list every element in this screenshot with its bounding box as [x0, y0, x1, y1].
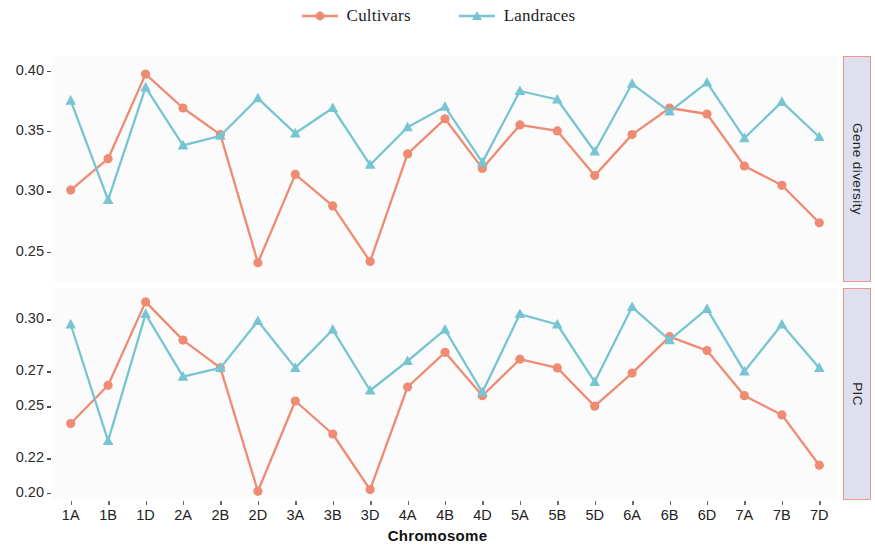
data-point-cultivars [328, 201, 337, 210]
x-axis-tick [408, 501, 409, 505]
data-point-landraces [65, 95, 76, 105]
x-axis-tick-label: 7D [810, 507, 829, 523]
data-point-cultivars [515, 120, 524, 129]
x-axis-tick [295, 501, 296, 505]
y-axis-tick [47, 131, 51, 132]
data-point-landraces [777, 319, 788, 329]
x-axis-tick [258, 501, 259, 505]
data-point-cultivars [740, 391, 749, 400]
x-axis-tick [520, 501, 521, 505]
data-point-landraces [440, 101, 451, 111]
x-axis-tick-label: 6B [661, 507, 679, 523]
data-point-cultivars [66, 186, 75, 195]
x-axis-tick [557, 501, 558, 505]
x-axis-tick-label: 4D [473, 507, 492, 523]
chart-legend: Cultivars Landraces [0, 0, 875, 32]
legend-item-landraces[interactable]: Landraces [457, 6, 576, 26]
x-axis-tick [445, 501, 446, 505]
data-point-cultivars [291, 170, 300, 179]
y-axis-tick-label: 0.30 [0, 310, 44, 326]
data-point-cultivars [628, 369, 637, 378]
x-axis-title: Chromosome [0, 527, 875, 544]
data-point-landraces [515, 309, 526, 319]
data-point-cultivars [515, 355, 524, 364]
x-axis-tick-label: 1A [62, 507, 80, 523]
x-axis-tick-label: 2A [174, 507, 192, 523]
data-point-cultivars [777, 410, 786, 419]
panel-pic [52, 288, 838, 500]
y-axis-tick [47, 319, 51, 320]
x-axis-tick-label: 3B [324, 507, 342, 523]
x-axis-tick-label: 7A [736, 507, 754, 523]
data-point-cultivars [366, 485, 375, 494]
y-axis-tick-label: 0.40 [0, 62, 44, 78]
data-point-cultivars [815, 461, 824, 470]
legend-item-cultivars[interactable]: Cultivars [300, 6, 411, 26]
x-axis-tick [595, 501, 596, 505]
x-axis-tick-label: 2D [249, 507, 268, 523]
data-point-cultivars [777, 181, 786, 190]
x-axis-tick-label: 4B [436, 507, 454, 523]
y-axis-tick-label: 0.35 [0, 122, 44, 138]
x-axis-tick-label: 5D [585, 507, 604, 523]
y-axis-tick-label: 0.25 [0, 397, 44, 413]
data-point-cultivars [178, 336, 187, 345]
data-point-cultivars [740, 161, 749, 170]
y-axis-tick [47, 406, 51, 407]
data-point-landraces [702, 77, 713, 87]
data-point-landraces [65, 319, 76, 329]
data-point-cultivars [253, 258, 262, 267]
facet-strip-label-gene-diversity: Gene diversity [850, 123, 865, 215]
y-axis-tick-label: 0.25 [0, 243, 44, 259]
data-point-landraces [327, 102, 338, 112]
data-point-landraces [515, 85, 526, 95]
legend-key-landraces-icon [457, 8, 497, 24]
x-axis-tick [782, 501, 783, 505]
data-point-cultivars [553, 363, 562, 372]
y-axis-tick-label: 0.27 [0, 362, 44, 378]
x-axis-tick-label: 3A [286, 507, 304, 523]
data-point-landraces [253, 315, 264, 325]
data-point-landraces [627, 302, 638, 312]
data-point-cultivars [403, 382, 412, 391]
data-point-cultivars [553, 126, 562, 135]
y-axis-tick-label: 0.30 [0, 182, 44, 198]
data-point-cultivars [590, 402, 599, 411]
x-axis-tick [108, 501, 109, 505]
data-point-cultivars [178, 103, 187, 112]
x-axis-tick [670, 501, 671, 505]
facet-strip-label-pic: PIC [850, 382, 865, 406]
x-axis-tick [333, 501, 334, 505]
data-point-cultivars [253, 487, 262, 496]
data-point-cultivars [590, 171, 599, 180]
y-axis-tick [47, 71, 51, 72]
x-axis-tick-label: 5B [548, 507, 566, 523]
data-point-cultivars [328, 429, 337, 438]
x-axis-tick [707, 501, 708, 505]
data-point-cultivars [702, 109, 711, 118]
y-axis-tick [47, 458, 51, 459]
facet-strip-gene-diversity: Gene diversity [843, 56, 871, 282]
y-axis-tick [47, 191, 51, 192]
data-point-landraces [627, 78, 638, 88]
data-point-cultivars [440, 114, 449, 123]
chart-root: Cultivars Landraces Gene diversity PIC 0… [0, 0, 875, 550]
data-point-landraces [103, 194, 114, 204]
x-axis-tick [370, 501, 371, 505]
data-point-landraces [777, 96, 788, 106]
data-point-cultivars [141, 297, 150, 306]
data-point-landraces [440, 324, 451, 334]
data-point-cultivars [440, 348, 449, 357]
x-axis-tick-label: 5A [511, 507, 529, 523]
x-axis-tick-label: 1D [136, 507, 155, 523]
x-axis-tick [220, 501, 221, 505]
y-axis-tick-label: 0.20 [0, 484, 44, 500]
x-axis-tick [819, 501, 820, 505]
y-axis-tick-label: 0.22 [0, 449, 44, 465]
x-axis-tick-label: 6A [623, 507, 641, 523]
data-point-landraces [702, 303, 713, 313]
data-point-cultivars [104, 154, 113, 163]
data-point-landraces [103, 435, 114, 445]
data-point-cultivars [66, 419, 75, 428]
x-axis-tick-label: 1B [99, 507, 117, 523]
